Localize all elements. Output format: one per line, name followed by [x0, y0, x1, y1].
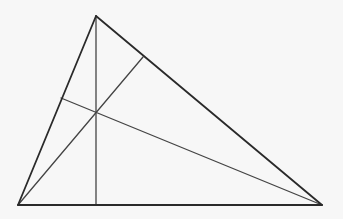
- altitude-from-C: [61, 98, 322, 205]
- altitude-from-B: [18, 57, 143, 205]
- side-AB: [18, 16, 96, 205]
- side-AC: [96, 16, 322, 205]
- triangle-diagram: [0, 0, 343, 219]
- triangle-figure: [0, 0, 343, 219]
